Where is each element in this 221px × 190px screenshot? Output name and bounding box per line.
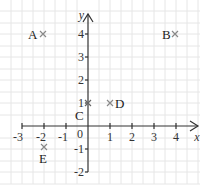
x-tick-labels: -3 -2 -1 1 2 3 4 0 x	[13, 127, 200, 144]
point-label: C	[75, 108, 84, 123]
x-tick: 1	[107, 130, 113, 144]
x-tick: -1	[58, 130, 68, 144]
y-axis	[83, 14, 93, 172]
y-tick: -1	[74, 142, 84, 156]
x-axis-label: x	[193, 130, 200, 144]
y-tick: -2	[74, 165, 84, 179]
point-e: E	[39, 144, 47, 166]
x-tick: 4	[173, 130, 179, 144]
y-tick: 3	[78, 50, 84, 64]
x-tick: -3	[13, 130, 23, 144]
point-label: A	[28, 27, 38, 42]
coordinate-grid: -3 -2 -1 1 2 3 4 0 x 4 3 2 1 -1 -2 y A B…	[0, 0, 221, 190]
y-axis-label: y	[78, 8, 85, 22]
x-tick: 2	[129, 130, 135, 144]
y-tick: 4	[78, 27, 84, 41]
point-a: A	[28, 27, 46, 42]
point-label: B	[162, 27, 171, 42]
x-tick: -2	[36, 130, 46, 144]
point-label: D	[115, 96, 124, 111]
y-tick: 2	[78, 73, 84, 87]
x-tick: 3	[151, 130, 157, 144]
origin-label: 0	[77, 127, 83, 141]
point-label: E	[39, 151, 47, 166]
